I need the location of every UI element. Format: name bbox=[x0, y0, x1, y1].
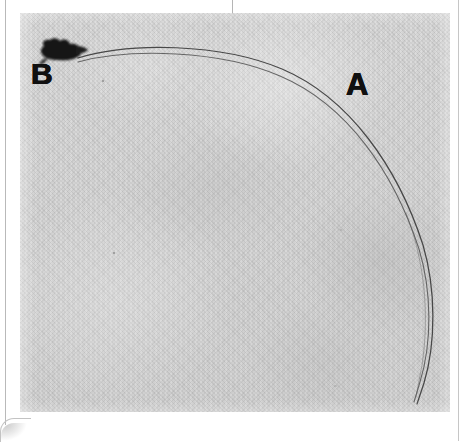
print-speck bbox=[340, 229, 342, 231]
print-speck bbox=[334, 385, 337, 387]
print-speck bbox=[102, 80, 104, 82]
catheter-curve-graphic bbox=[20, 13, 450, 412]
page-right-rule bbox=[458, 0, 459, 441]
shaft-inner-wall-path bbox=[78, 53, 429, 402]
page-corner-curl-shadow bbox=[1, 423, 27, 441]
figure-label-b: B bbox=[31, 59, 53, 89]
figure-photograph: B A bbox=[20, 13, 450, 412]
page-top-tick-rule bbox=[232, 0, 233, 13]
figure-label-a: A bbox=[346, 69, 368, 100]
shaft-outer-wall-path bbox=[78, 47, 433, 404]
print-speck bbox=[113, 252, 115, 254]
page-left-rule bbox=[5, 0, 6, 425]
